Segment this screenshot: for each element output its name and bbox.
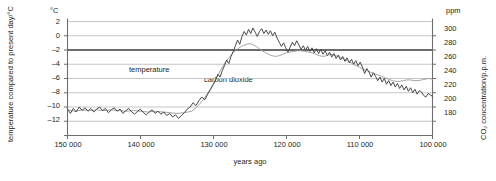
climate-chart-figure: temperature compared to present day/°C C… bbox=[0, 0, 496, 181]
plot-area bbox=[0, 0, 496, 181]
